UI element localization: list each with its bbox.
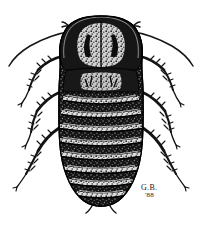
leg-front-right <box>139 56 184 107</box>
leg-hind-right <box>143 128 189 191</box>
mesonotum <box>63 68 139 92</box>
leg-front-left <box>18 56 63 107</box>
artist-year: '88 <box>145 192 154 199</box>
leg-middle-right <box>142 92 180 149</box>
body-group <box>55 14 147 213</box>
pronotum <box>60 16 143 70</box>
leg-middle-left <box>22 92 60 149</box>
insect-illustration-figure: G.B. '88 <box>0 0 202 226</box>
leg-hind-left <box>13 128 59 191</box>
cockroach-drawing <box>0 0 202 226</box>
